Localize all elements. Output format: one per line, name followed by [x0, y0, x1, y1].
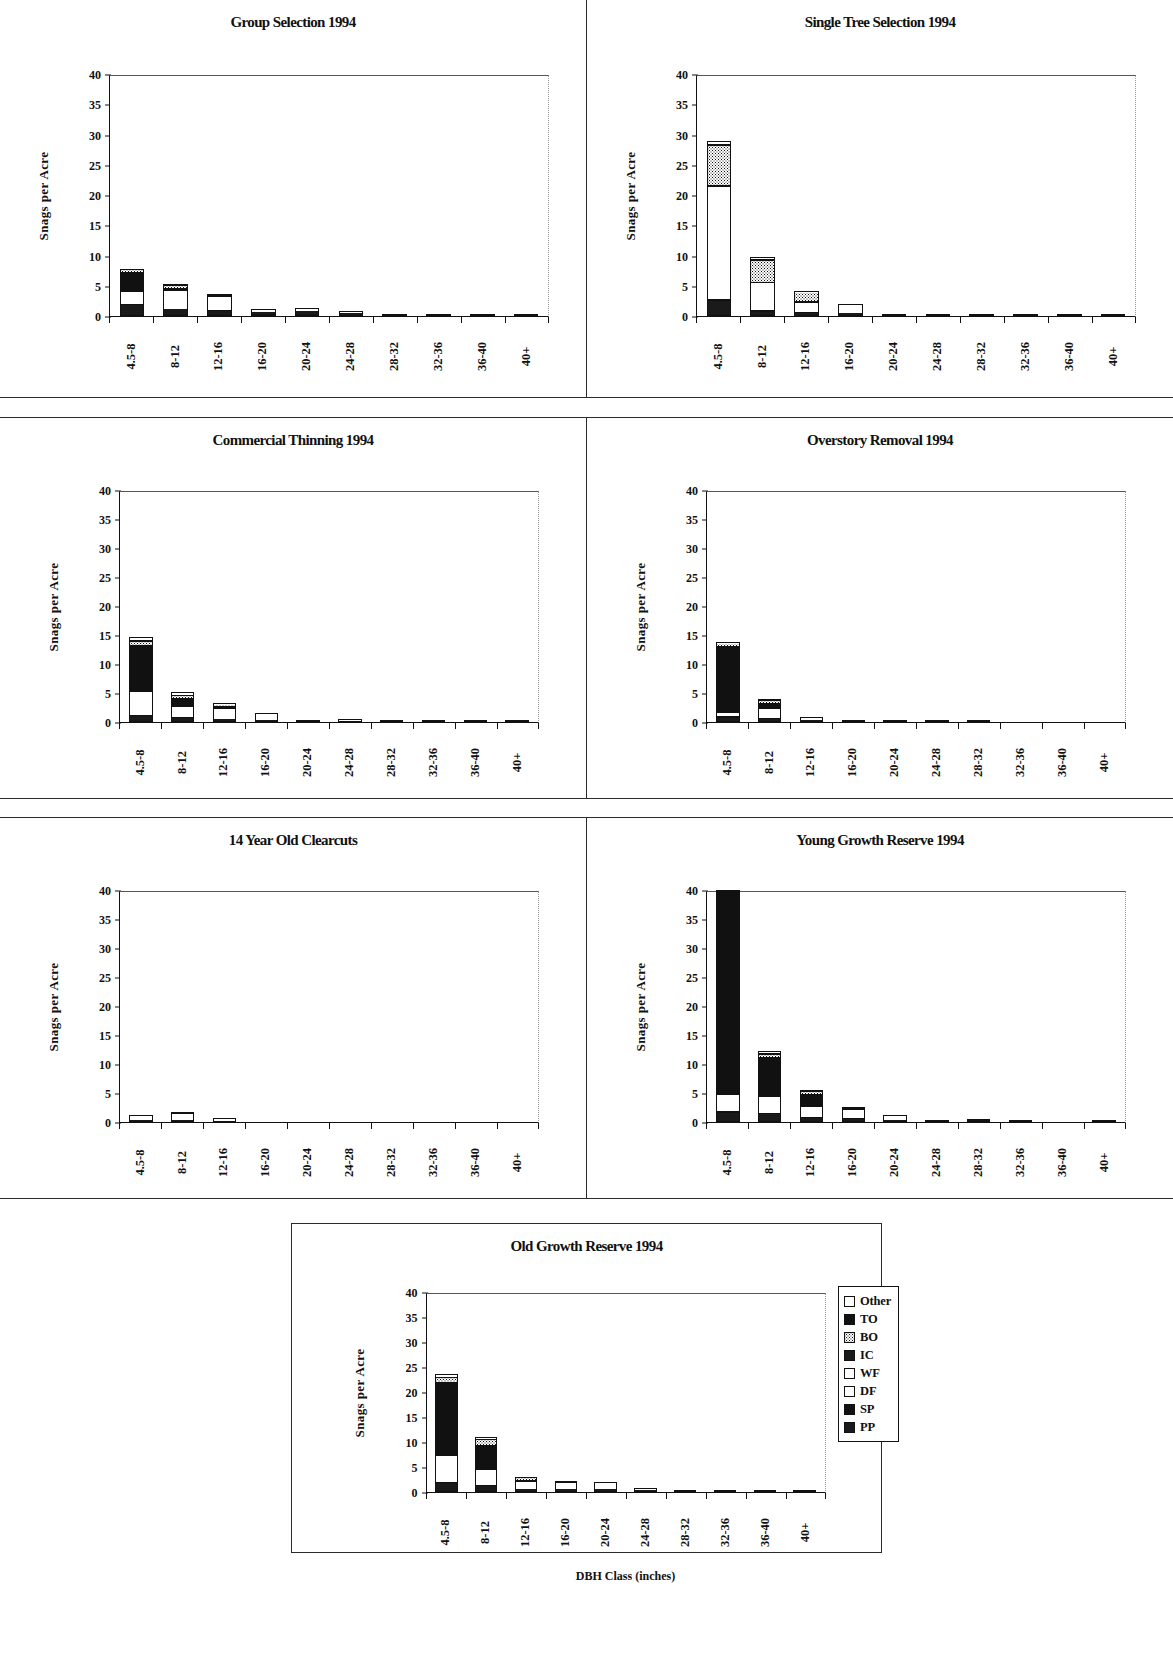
axes-frame [119, 891, 539, 1123]
x-tick-marks [109, 317, 549, 323]
x-tick-label: 40+ [1084, 1133, 1126, 1195]
x-tick-label-text: 40+ [798, 1523, 813, 1543]
bar-slot [1041, 492, 1083, 722]
x-tick-label: 8-12 [748, 1133, 790, 1195]
x-tick-label: 4.5-8 [696, 327, 740, 389]
x-tick-label-text: 8-12 [167, 345, 182, 368]
x-tick-label: 8-12 [161, 733, 203, 795]
bar-segment [759, 1100, 780, 1113]
plot-area: Snags per Acre05101520253035404.5-88-121… [620, 449, 1140, 833]
stacked-bar [470, 314, 495, 316]
x-tick-label-text: 36-40 [475, 342, 490, 371]
stacked-bar [716, 642, 739, 722]
x-tick-mark [285, 317, 329, 323]
bar-slot [745, 1294, 785, 1492]
bar-segment [130, 716, 151, 721]
bar-segment [296, 311, 319, 315]
x-tick-label: 20-24 [287, 1133, 329, 1195]
legend-item[interactable]: BO [844, 1328, 891, 1346]
x-tick-label-text: 36-40 [758, 1518, 773, 1547]
x-tick-label: 8-12 [740, 327, 784, 389]
x-tick-label-text: 4.5-8 [123, 343, 138, 369]
bar-slot [245, 492, 287, 722]
stacked-bar [758, 699, 781, 722]
x-tick-label-text: 12-16 [803, 1148, 818, 1177]
stacked-bar [339, 311, 364, 316]
stacked-bar [1092, 1120, 1115, 1122]
bar-slot [874, 492, 916, 722]
legend-item[interactable]: Other [844, 1292, 891, 1310]
stacked-bar [838, 304, 863, 316]
bar-segment [801, 720, 822, 721]
x-tick-label-text: 24-28 [343, 342, 358, 371]
axes-frame [109, 75, 549, 317]
y-tick-label: 20 [99, 600, 111, 615]
x-tick-mark [786, 1493, 826, 1499]
bar-slot [705, 1294, 745, 1492]
x-tick-label: 8-12 [466, 1503, 506, 1565]
stacked-bar [634, 1488, 656, 1493]
x-tick-mark [1004, 317, 1048, 323]
y-tick-label: 40 [686, 484, 698, 499]
x-tick-mark [1042, 1123, 1084, 1129]
x-tick-label: 20-24 [285, 327, 329, 389]
bar-slot [329, 76, 373, 316]
x-tick-mark [413, 723, 455, 729]
x-tick-label-text: 32-36 [1013, 748, 1028, 777]
stacked-bar [926, 314, 951, 316]
y-tick-label: 40 [686, 884, 698, 899]
stacked-bar [163, 284, 188, 316]
x-tick-label-text: 12-16 [803, 748, 818, 777]
x-tick-label-text: 20-24 [598, 1518, 613, 1547]
x-tick-labels: 4.5-88-1212-1616-2020-2424-2828-3232-363… [696, 327, 1136, 389]
bar-slot [625, 1294, 665, 1492]
legend-item[interactable]: WF [844, 1364, 891, 1382]
legend-item[interactable]: IC [844, 1346, 891, 1364]
x-tick-mark [916, 723, 958, 729]
stacked-bar [716, 890, 739, 1122]
bar-segment [759, 1057, 780, 1096]
legend-item[interactable]: DF [844, 1382, 891, 1400]
x-tick-mark [748, 723, 790, 729]
x-tick-label-text: 36-40 [1055, 748, 1070, 777]
bar-segment [717, 1099, 738, 1111]
x-tick-label: 4.5-8 [706, 733, 748, 795]
bar-slot [960, 76, 1004, 316]
x-tick-label: 12-16 [203, 733, 245, 795]
chart-title: Single Tree Selection 1994 [587, 0, 1173, 31]
bar-segment [256, 720, 277, 721]
y-tick-label: 0 [105, 1116, 111, 1131]
legend-item[interactable]: PP [844, 1418, 891, 1436]
x-tick-mark [832, 723, 874, 729]
stacked-bar [514, 314, 539, 316]
stacked-bar [515, 1477, 537, 1492]
y-tick-label: 25 [406, 1361, 418, 1376]
legend-label: WF [860, 1366, 880, 1381]
panel-single-tree: Single Tree Selection 1994 Snags per Acr… [586, 0, 1173, 398]
x-tick-label-text: 40+ [1107, 347, 1122, 367]
stacked-bar [464, 720, 487, 722]
x-tick-mark [287, 723, 329, 729]
bar-slot [204, 492, 246, 722]
bar-slot [427, 1294, 467, 1492]
x-tick-mark [706, 1493, 746, 1499]
chart-young-growth-reserve: Snags per Acre05101520253035404.5-88-121… [587, 849, 1173, 1233]
stacked-bar [435, 1374, 457, 1492]
bar-segment [214, 711, 235, 719]
bar-segment [717, 1113, 738, 1121]
legend-item[interactable]: SP [844, 1400, 891, 1418]
y-tick-label: 35 [406, 1311, 418, 1326]
bar-segment [164, 309, 187, 315]
y-tick-label: 35 [99, 513, 111, 528]
y-tick-label: 10 [99, 658, 111, 673]
x-tick-label: 4.5-8 [706, 1133, 748, 1195]
y-axis-title: Snags per Acre [618, 75, 644, 317]
y-tick-label: 30 [676, 128, 688, 143]
y-axis-title-text: Snags per Acre [36, 152, 52, 241]
bar-segment [476, 1445, 496, 1470]
x-tick-label: 20-24 [586, 1503, 626, 1565]
stacked-bar [1057, 314, 1082, 316]
plot-area: Snags per Acre05101520253035404.5-88-121… [620, 849, 1140, 1233]
legend-item[interactable]: TO [844, 1310, 891, 1328]
chart-overstory-removal: Snags per Acre05101520253035404.5-88-121… [587, 449, 1173, 833]
